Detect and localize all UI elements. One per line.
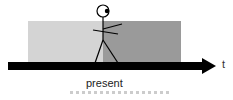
faint-caption [70,91,170,94]
present-label: present [86,77,123,89]
time-arrow [8,58,216,74]
time-axis-label: t [222,58,225,70]
stick-figure-icon [93,5,122,63]
